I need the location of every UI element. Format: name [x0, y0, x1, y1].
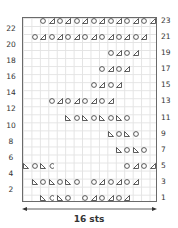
right-decrease-icon — [106, 97, 114, 105]
open-c-icon — [47, 194, 55, 202]
right-decrease-icon — [47, 17, 55, 25]
yarn-over-icon — [47, 33, 55, 41]
row-number-label: 10 — [4, 122, 18, 130]
right-decrease-icon — [140, 33, 148, 41]
yarn-over-icon — [90, 81, 98, 89]
right-decrease-icon — [56, 97, 64, 105]
row-number-label: 15 — [161, 81, 175, 89]
right-decrease-icon — [115, 17, 123, 25]
yarn-over-icon — [73, 114, 81, 122]
row-number-label: 18 — [4, 57, 18, 65]
right-decrease-icon — [90, 97, 98, 105]
right-decrease-icon — [106, 194, 114, 202]
yarn-over-icon — [106, 81, 114, 89]
yarn-over-icon — [123, 162, 131, 170]
yarn-over-icon — [73, 17, 81, 25]
row-number-label: 5 — [161, 162, 175, 170]
left-decrease-icon — [39, 162, 47, 170]
yarn-over-icon — [115, 33, 123, 41]
right-decrease-icon — [132, 178, 140, 186]
yarn-over-icon — [115, 130, 123, 138]
width-arrow-icon — [22, 206, 157, 212]
right-decrease-icon — [73, 33, 81, 41]
yarn-over-icon — [90, 17, 98, 25]
yarn-over-icon — [56, 17, 64, 25]
row-number-label: 12 — [4, 105, 18, 113]
yarn-over-icon — [64, 194, 72, 202]
left-decrease-icon — [47, 178, 55, 186]
right-decrease-icon — [115, 81, 123, 89]
yarn-over-icon — [106, 49, 114, 57]
yarn-over-icon — [98, 65, 106, 73]
yarn-over-icon — [115, 194, 123, 202]
row-number-label: 19 — [161, 49, 175, 57]
row-number-label: 1 — [161, 194, 175, 202]
row-number-label: 22 — [4, 25, 18, 33]
right-decrease-icon — [81, 17, 89, 25]
left-decrease-icon — [81, 114, 89, 122]
row-number-label: 9 — [161, 130, 175, 138]
yarn-over-icon — [98, 97, 106, 105]
open-c-icon — [47, 162, 55, 170]
stitch-count-label: 16 sts — [0, 214, 178, 224]
yarn-over-icon — [115, 65, 123, 73]
left-decrease-icon — [132, 146, 140, 154]
yarn-over-icon — [98, 33, 106, 41]
right-decrease-icon — [132, 49, 140, 57]
right-decrease-icon — [39, 33, 47, 41]
yarn-over-icon — [140, 17, 148, 25]
row-number-label: 17 — [161, 65, 175, 73]
row-number-label: 11 — [161, 114, 175, 122]
yarn-over-icon — [132, 130, 140, 138]
row-number-label: 3 — [161, 178, 175, 186]
right-decrease-icon — [132, 162, 140, 170]
left-decrease-icon — [115, 114, 123, 122]
row-number-label: 7 — [161, 146, 175, 154]
left-decrease-icon — [115, 146, 123, 154]
left-decrease-icon — [64, 114, 72, 122]
yarn-over-icon — [64, 33, 72, 41]
yarn-over-icon — [132, 33, 140, 41]
right-decrease-icon — [98, 17, 106, 25]
yarn-over-icon — [39, 17, 47, 25]
yarn-over-icon — [56, 178, 64, 186]
left-decrease-icon — [39, 194, 47, 202]
right-decrease-icon — [115, 49, 123, 57]
yarn-over-icon — [30, 162, 38, 170]
left-decrease-icon — [64, 178, 72, 186]
right-decrease-icon — [106, 65, 114, 73]
left-decrease-icon — [30, 178, 38, 186]
yarn-over-icon — [123, 17, 131, 25]
row-number-label: 20 — [4, 41, 18, 49]
row-number-label: 13 — [161, 97, 175, 105]
knitting-chart: 1357911131517192123246810121416182022 16… — [0, 0, 178, 228]
right-decrease-icon — [73, 97, 81, 105]
yarn-over-icon — [47, 97, 55, 105]
row-number-label: 4 — [4, 170, 18, 178]
right-decrease-icon — [98, 178, 106, 186]
yarn-over-icon — [140, 162, 148, 170]
yarn-over-icon — [106, 114, 114, 122]
yarn-over-icon — [123, 178, 131, 186]
right-decrease-icon — [64, 17, 72, 25]
yarn-over-icon — [64, 97, 72, 105]
yarn-over-icon — [123, 114, 131, 122]
yarn-over-icon — [30, 33, 38, 41]
left-decrease-icon — [56, 194, 64, 202]
row-number-label: 6 — [4, 154, 18, 162]
right-decrease-icon — [98, 81, 106, 89]
yarn-over-icon — [123, 49, 131, 57]
row-number-label: 16 — [4, 73, 18, 81]
right-decrease-icon — [56, 33, 64, 41]
yarn-over-icon — [81, 194, 89, 202]
row-number-label: 21 — [161, 33, 175, 41]
right-decrease-icon — [90, 33, 98, 41]
chart-grid — [22, 17, 157, 202]
right-decrease-icon — [149, 162, 157, 170]
row-number-label: 2 — [4, 186, 18, 194]
row-number-label: 23 — [161, 17, 175, 25]
yarn-over-icon — [39, 178, 47, 186]
right-decrease-icon — [115, 178, 123, 186]
yarn-over-icon — [140, 146, 148, 154]
left-decrease-icon — [106, 130, 114, 138]
